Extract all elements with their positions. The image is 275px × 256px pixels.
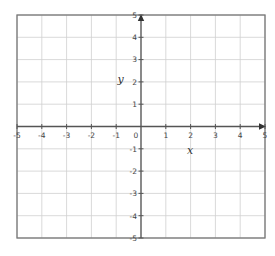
x-tick-label: 0: [134, 131, 139, 140]
coordinate-plane: -5-4-3-2-1012345 -5-4-3-2-112345 x y: [0, 0, 275, 256]
x-tick-label: 5: [263, 131, 268, 140]
y-tick-label: 3: [132, 55, 137, 64]
y-tick-label: -1: [130, 145, 138, 154]
y-tick-label: -4: [130, 212, 138, 221]
x-tick-label: -2: [88, 131, 96, 140]
axes: [17, 14, 266, 238]
x-tick-label: 2: [188, 131, 193, 140]
x-axis-label: x: [187, 144, 194, 157]
y-tick-label: 4: [132, 33, 137, 42]
y-tick-label: -2: [130, 167, 138, 176]
x-tick-label: -4: [38, 131, 46, 140]
x-tick-label: 4: [238, 131, 243, 140]
x-tick-label: 3: [213, 131, 218, 140]
y-tick-label: 1: [132, 100, 137, 109]
x-tick-label: -5: [13, 131, 21, 140]
x-tick-label: -3: [63, 131, 71, 140]
y-tick-label: 2: [132, 78, 137, 87]
y-tick-label: -3: [130, 189, 138, 198]
x-tick-label: 1: [163, 131, 168, 140]
y-tick-label: 5: [132, 11, 137, 20]
x-tick-label: -1: [112, 131, 120, 140]
y-tick-label: -5: [130, 234, 138, 243]
y-axis-label: y: [116, 73, 124, 86]
